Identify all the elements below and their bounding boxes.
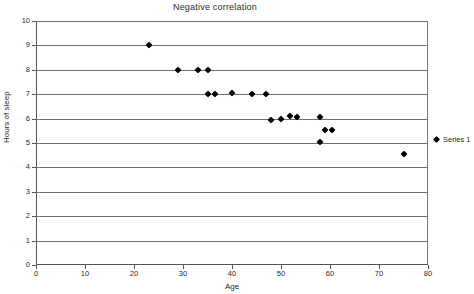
data-point xyxy=(248,91,255,98)
data-point xyxy=(204,66,211,73)
scatter-chart: Negative correlation 012345678910 010203… xyxy=(0,0,474,294)
y-tick xyxy=(32,192,36,193)
y-tick-label: 3 xyxy=(26,188,30,196)
y-tick xyxy=(32,119,36,120)
data-point xyxy=(268,116,275,123)
x-tick-label: 20 xyxy=(130,270,138,278)
y-axis-title: Hours of sleep xyxy=(2,91,11,143)
y-tick xyxy=(32,21,36,22)
x-tick-label: 40 xyxy=(228,270,236,278)
y-tick xyxy=(32,70,36,71)
y-tick xyxy=(32,94,36,95)
data-point xyxy=(317,114,324,121)
y-tick-label: 4 xyxy=(26,164,30,172)
y-tick-label: 7 xyxy=(26,90,30,98)
y-tick xyxy=(32,45,36,46)
data-point xyxy=(211,91,218,98)
legend-marker-icon xyxy=(433,136,440,143)
legend-label: Series 1 xyxy=(443,135,471,144)
chart-legend: Series 1 xyxy=(434,135,471,144)
x-tick-label: 10 xyxy=(81,270,89,278)
data-point xyxy=(277,115,284,122)
data-point xyxy=(400,150,407,157)
y-tick-label: 8 xyxy=(26,66,30,74)
y-tick-label: 1 xyxy=(26,237,30,245)
y-tick-label: 2 xyxy=(26,212,30,220)
gridline xyxy=(36,241,428,242)
gridline xyxy=(36,143,428,144)
y-tick-label: 5 xyxy=(26,139,30,147)
gridline xyxy=(36,45,428,46)
y-tick-label: 9 xyxy=(26,42,30,50)
x-tick-label: 60 xyxy=(326,270,334,278)
data-point xyxy=(263,91,270,98)
gridline xyxy=(36,167,428,168)
plot-area: 012345678910 01020304050607080 xyxy=(36,21,428,265)
y-tick-label: 0 xyxy=(26,261,30,269)
data-point xyxy=(194,66,201,73)
y-tick-label: 6 xyxy=(26,115,30,123)
x-tick-label: 80 xyxy=(424,270,432,278)
data-point xyxy=(204,91,211,98)
gridline xyxy=(36,216,428,217)
data-point xyxy=(293,114,300,121)
gridline xyxy=(36,21,428,22)
y-tick xyxy=(32,216,36,217)
y-tick xyxy=(32,143,36,144)
y-tick xyxy=(32,241,36,242)
x-tick-label: 50 xyxy=(277,270,285,278)
data-point xyxy=(329,126,336,133)
chart-title: Negative correlation xyxy=(0,2,430,12)
gridline xyxy=(36,119,428,120)
gridline xyxy=(36,70,428,71)
data-point xyxy=(317,138,324,145)
data-point xyxy=(145,42,152,49)
x-tick-label: 0 xyxy=(34,270,38,278)
data-point xyxy=(175,66,182,73)
data-point xyxy=(228,89,235,96)
y-tick-label: 10 xyxy=(22,17,30,25)
x-axis-title: Age xyxy=(36,282,428,291)
x-tick-label: 30 xyxy=(179,270,187,278)
y-tick xyxy=(32,167,36,168)
x-tick-label: 70 xyxy=(375,270,383,278)
gridline xyxy=(36,192,428,193)
